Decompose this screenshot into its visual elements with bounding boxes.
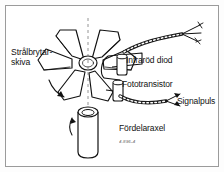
label-distributor-shaft: Fördelaraxel <box>119 124 165 134</box>
diode-lead-tip-upper <box>198 22 203 28</box>
signal-pulse-cable <box>120 93 180 106</box>
vane-bottom-right <box>89 71 113 101</box>
label-small-caption: 4.896-4 <box>119 137 135 147</box>
ir-diode-cable <box>124 22 203 52</box>
shaft-bore <box>82 110 94 116</box>
diode-lead-wires <box>182 25 201 41</box>
label-shutter-disc-line2: skiva <box>11 58 52 68</box>
label-signal-pulse: Signalpuls <box>177 97 215 107</box>
label-shutter-disc: Strålbrytar- skiva <box>11 48 52 67</box>
diagram-artwork <box>0 0 224 172</box>
label-phototransistor: Fototransistor <box>122 80 173 90</box>
figure-frame: Strålbrytar- skiva Infraröd diod Fototra… <box>0 0 224 172</box>
diode-cable-core <box>124 34 182 52</box>
label-ir-diode: Infraröd diod <box>126 56 172 66</box>
distributor-shaft-group <box>70 107 98 158</box>
shaft-body <box>78 112 98 158</box>
